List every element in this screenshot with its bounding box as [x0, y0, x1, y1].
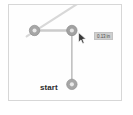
- node-corner[interactable]: [67, 25, 77, 35]
- path-drawing-canvas[interactable]: [9, 5, 121, 100]
- node-left[interactable]: [29, 25, 39, 35]
- node-start[interactable]: [67, 79, 77, 89]
- start-label: start: [40, 84, 58, 92]
- screenshot-root: start 0.13 in: [0, 0, 133, 115]
- canvas-frame: start 0.13 in: [8, 4, 122, 101]
- measurement-badge: 0.13 in: [94, 32, 113, 40]
